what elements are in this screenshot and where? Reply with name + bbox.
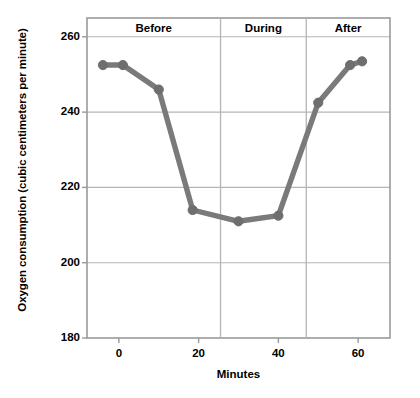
data-point-2 — [154, 85, 163, 94]
plot-border — [87, 18, 390, 338]
data-point-6 — [314, 98, 323, 107]
data-point-1 — [118, 60, 127, 69]
plot-area — [0, 0, 420, 398]
data-point-3 — [188, 205, 197, 214]
data-point-7 — [346, 60, 355, 69]
data-markers — [98, 57, 366, 226]
plot-frame — [87, 18, 390, 338]
series-line-oxygen-consumption — [103, 61, 362, 221]
data-point-0 — [98, 60, 107, 69]
data-point-8 — [357, 57, 366, 66]
oxygen-consumption-chart: Oxygen consumption (cubic centimeters pe… — [0, 0, 420, 398]
data-point-4 — [234, 217, 243, 226]
data-line — [103, 61, 362, 221]
data-point-5 — [274, 211, 283, 220]
